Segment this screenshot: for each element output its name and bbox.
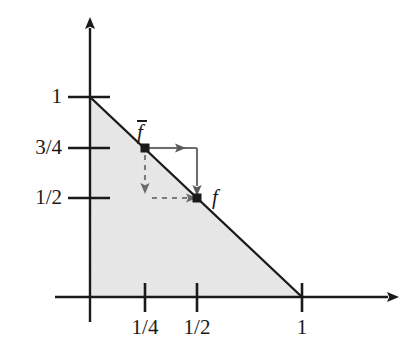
figure-root: 1 3/4 1/2 1/4 1/2 1 f f bbox=[0, 0, 420, 359]
y-tick-label-1-2: 1/2 bbox=[10, 187, 62, 208]
fbar-overbar-glyph: f bbox=[137, 119, 143, 143]
x-tick-label-1: 1 bbox=[289, 317, 315, 338]
y-tick-label-3-4: 3/4 bbox=[10, 137, 62, 158]
y-tick-label-1: 1 bbox=[34, 86, 62, 107]
overbar-icon bbox=[137, 120, 147, 122]
point-fbar-marker bbox=[141, 144, 150, 153]
point-label-f: f bbox=[212, 187, 218, 208]
point-f-marker bbox=[193, 194, 202, 203]
fbar-letter: f bbox=[137, 120, 143, 144]
point-label-fbar: f bbox=[137, 119, 143, 143]
figure-canvas bbox=[0, 0, 420, 359]
x-tick-label-1-4: 1/4 bbox=[119, 317, 171, 338]
x-tick-label-1-2: 1/2 bbox=[171, 317, 223, 338]
